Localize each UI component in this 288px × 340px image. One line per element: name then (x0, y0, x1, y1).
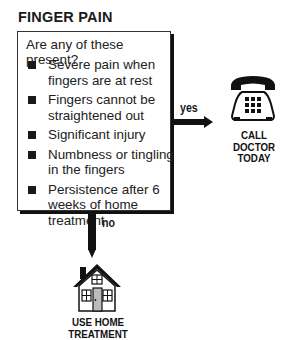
symptom-item: Fingers cannot be straightened out (26, 92, 178, 123)
no-label: no (102, 216, 115, 230)
symptom-text: Significant injury (48, 127, 146, 142)
square-bullet-icon (28, 96, 36, 104)
telephone-icon (228, 74, 278, 124)
arrow-right-icon (204, 116, 213, 128)
square-bullet-icon (28, 186, 36, 194)
symptom-item: Severe pain when fingers are at rest (26, 57, 178, 88)
no-arrow-shaft (88, 212, 96, 250)
symptom-box: Are any of these present? Severe pain wh… (17, 31, 171, 211)
yes-label: yes (180, 101, 198, 115)
house-icon (72, 261, 122, 313)
square-bullet-icon (28, 151, 36, 159)
home-treatment-outcome: USE HOME TREATMENT (64, 317, 132, 340)
symptom-text: Fingers cannot be straightened out (48, 92, 155, 123)
arrow-down-icon (88, 249, 96, 258)
yes-arrow-shaft (172, 119, 205, 125)
page-title: FINGER PAIN (18, 9, 113, 25)
symptom-text: Severe pain when fingers are at rest (48, 57, 155, 88)
symptom-item: Significant injury (26, 127, 178, 143)
symptom-list: Severe pain when fingers are at rest Fin… (26, 57, 178, 232)
call-doctor-outcome: CALL DOCTOR TODAY (230, 130, 278, 165)
symptom-item: Numbness or tingling in the fingers (26, 147, 178, 178)
square-bullet-icon (28, 61, 36, 69)
square-bullet-icon (28, 131, 36, 139)
symptom-text: Numbness or tingling in the fingers (48, 147, 174, 178)
